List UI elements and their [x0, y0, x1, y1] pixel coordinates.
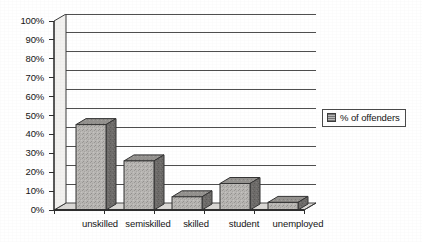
- bar-unskilled-face: [76, 125, 106, 210]
- y-tick-70: 70%: [4, 73, 44, 83]
- bar-student-face: [220, 184, 250, 211]
- bar-semiskilled-side: [154, 155, 164, 210]
- plot-svg: [46, 14, 316, 226]
- bar-skilled-face: [172, 197, 202, 210]
- x-tick-skilled: skilled: [170, 218, 222, 229]
- bar-student[interactable]: [220, 178, 260, 211]
- bar-unemployed-face: [268, 202, 298, 210]
- bar-chart-figure: 100% 90% 80% 70% 60% 50% 40% 30% 20% 10%…: [0, 0, 422, 242]
- y-tick-90: 90%: [4, 35, 44, 45]
- y-tick-20: 20%: [4, 167, 44, 177]
- y-tick-100: 100%: [4, 16, 44, 26]
- left-wall: [54, 14, 66, 210]
- bar-skilled[interactable]: [172, 191, 212, 210]
- x-axis-tick-labels: unskilled semiskilled skilled student un…: [46, 212, 346, 238]
- y-tick-30: 30%: [4, 148, 44, 158]
- x-tick-unemployed: unemployed: [260, 218, 336, 229]
- bar-semiskilled-face: [124, 161, 154, 210]
- y-tick-40: 40%: [4, 129, 44, 139]
- y-tick-10: 10%: [4, 186, 44, 196]
- bar-student-side: [250, 178, 260, 211]
- bar-unskilled-side: [106, 119, 116, 210]
- y-tick-80: 80%: [4, 54, 44, 64]
- y-tick-0: 0%: [4, 205, 44, 215]
- plot-area: [46, 14, 316, 226]
- y-tick-50: 50%: [4, 111, 44, 121]
- y-tick-60: 60%: [4, 92, 44, 102]
- y-axis-ticks: [49, 21, 54, 210]
- series-swatch-icon: [327, 113, 336, 122]
- chart-legend[interactable]: % of offenders: [322, 109, 406, 127]
- bar-unemployed[interactable]: [268, 196, 308, 210]
- y-axis-tick-labels: 100% 90% 80% 70% 60% 50% 40% 30% 20% 10%…: [0, 0, 44, 242]
- legend-entry-label: % of offenders: [340, 112, 400, 123]
- bar-unskilled[interactable]: [76, 119, 116, 210]
- bar-semiskilled[interactable]: [124, 155, 164, 210]
